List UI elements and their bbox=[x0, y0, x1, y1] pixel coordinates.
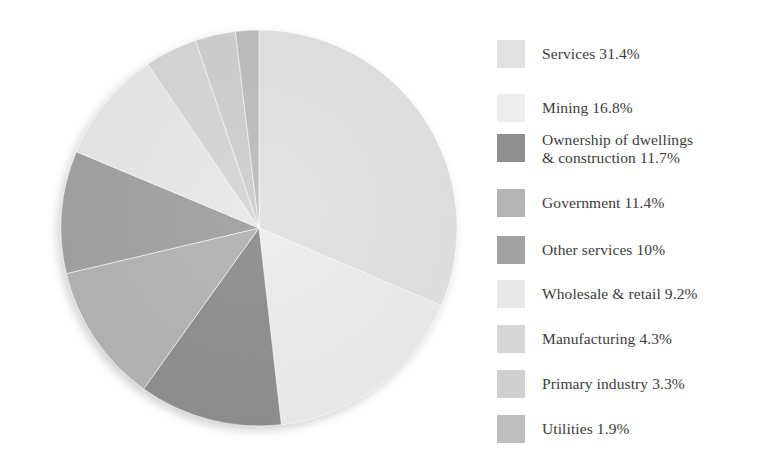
legend-swatch bbox=[497, 134, 525, 162]
legend-swatch bbox=[497, 94, 525, 122]
pie-chart-figure: Services 31.4%Mining 16.8%Ownership of d… bbox=[0, 0, 763, 457]
legend-item-label: Primary industry 3.3% bbox=[542, 375, 685, 393]
legend-item-label: Other services 10% bbox=[542, 241, 665, 259]
legend-swatch bbox=[497, 415, 525, 443]
legend-item[interactable]: Wholesale & retail 9.2% bbox=[497, 280, 759, 308]
legend-item-label: Government 11.4% bbox=[542, 194, 664, 212]
legend-item[interactable]: Ownership of dwellings & construction 11… bbox=[497, 131, 759, 168]
legend-item[interactable]: Utilities 1.9% bbox=[497, 415, 759, 443]
legend-item-label: Wholesale & retail 9.2% bbox=[542, 285, 698, 303]
pie-chart-area bbox=[48, 18, 473, 443]
legend-item[interactable]: Primary industry 3.3% bbox=[497, 370, 759, 398]
pie-svg bbox=[48, 18, 473, 443]
pie-slice-group bbox=[61, 30, 457, 426]
legend-item-label: Ownership of dwellings & construction 11… bbox=[542, 131, 693, 168]
legend-item[interactable]: Manufacturing 4.3% bbox=[497, 325, 759, 353]
legend-item[interactable]: Other services 10% bbox=[497, 236, 759, 264]
legend-swatch bbox=[497, 280, 525, 308]
legend: Services 31.4%Mining 16.8%Ownership of d… bbox=[497, 26, 759, 436]
legend-item[interactable]: Mining 16.8% bbox=[497, 94, 759, 122]
legend-item-label: Utilities 1.9% bbox=[542, 420, 630, 438]
legend-swatch bbox=[497, 189, 525, 217]
legend-swatch bbox=[497, 40, 525, 68]
legend-item-label: Mining 16.8% bbox=[542, 99, 633, 117]
legend-item[interactable]: Services 31.4% bbox=[497, 40, 759, 68]
legend-swatch bbox=[497, 236, 525, 264]
legend-item-label: Manufacturing 4.3% bbox=[542, 330, 672, 348]
legend-item[interactable]: Government 11.4% bbox=[497, 189, 759, 217]
legend-swatch bbox=[497, 370, 525, 398]
legend-item-label: Services 31.4% bbox=[542, 45, 640, 63]
legend-swatch bbox=[497, 325, 525, 353]
